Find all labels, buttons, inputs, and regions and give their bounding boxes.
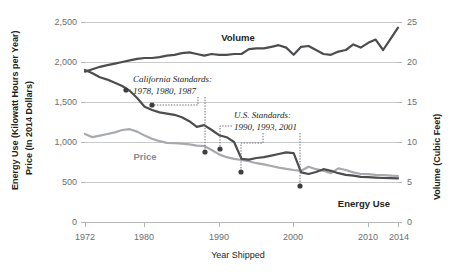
y-left-label-0: 0 [72,217,77,227]
x-axis-title: Year Shipped [211,250,265,260]
y-axis-right-ticks [398,22,402,222]
y-right-label-15: 15 [407,97,417,107]
annotation-us-standards: U.S. Standards: 1990, 1993, 2001 [217,110,302,189]
y-axis-left-title-price-bold: Price [24,153,34,175]
y-right-label-10: 10 [407,137,417,147]
series-label-price: Price [133,151,156,162]
y-axis-right-labels: 25 20 15 10 5 0 [407,17,417,227]
annotation-marker-1987 [202,149,207,154]
series-label-volume: Volume [221,32,255,43]
annotation-us-title: U.S. Standards: [234,110,291,120]
y-axis-left-title-price-units: (In 2014 Dollars) [24,81,34,153]
x-label-2000: 2000 [283,232,303,242]
annotation-marker-1993 [238,169,243,174]
annotation-marker-2001 [297,183,302,188]
annotation-marker-1978 [123,87,128,92]
y-left-label-1500: 1,500 [54,97,77,107]
y-right-label-0: 0 [407,217,412,227]
x-label-1990: 1990 [209,232,229,242]
annotation-marker-1980 [149,102,154,107]
x-axis [85,222,398,227]
chart-container: 2,500 2,000 1,500 1,000 500 0 25 20 15 1… [0,0,450,278]
y-axis-right-title: Volume (Cubic Feet) [432,114,442,200]
y-axis-right-title-bold: Volume [432,168,442,200]
y-axis-left-title-energy: Energy Use (Kilowatt Hours per Year) [10,31,20,190]
energy-price-volume-line-chart: 2,500 2,000 1,500 1,000 500 0 25 20 15 1… [0,0,450,278]
y-right-label-20: 20 [407,57,417,67]
y-axis-left-title-group: Energy Use (Kilowatt Hours per Year) Pri… [10,31,34,190]
y-axis-left-title-energy-bold: Energy Use [10,140,20,190]
y-axis-left-labels: 2,500 2,000 1,500 1,000 500 0 [54,17,77,227]
annotation-california-years: 1978, 1980, 1987 [133,86,197,96]
y-axis-left-title-energy-units: (Kilowatt Hours per Year) [10,31,20,141]
y-left-label-500: 500 [62,177,77,187]
y-left-label-2000: 2,000 [54,57,77,67]
y-axis-left-title-price: Price (In 2014 Dollars) [24,81,34,175]
annotation-us-years: 1990, 1993, 2001 [234,122,297,132]
series-label-energy-use: Energy Use [338,198,390,209]
annotation-california-title: California Standards: [133,74,212,84]
y-axis-left-ticks [81,22,85,222]
y-right-label-25: 25 [407,17,417,27]
x-label-2010: 2010 [358,232,378,242]
annotation-california-leader-1980 [153,97,198,105]
annotation-marker-1990 [217,146,222,151]
annotation-us-leader-1993 [241,133,263,172]
y-axis-right-title-units: (Cubic Feet) [432,114,442,169]
x-label-2014: 2014 [389,232,409,242]
x-label-1972: 1972 [75,232,95,242]
x-axis-labels: 1972 1980 1990 2000 2010 2014 [75,232,409,242]
y-right-label-5: 5 [407,177,412,187]
y-left-label-1000: 1,000 [54,137,77,147]
series-line-price [85,129,398,176]
y-left-label-2500: 2,500 [54,17,77,27]
data-series [85,28,398,179]
x-label-1980: 1980 [134,232,154,242]
